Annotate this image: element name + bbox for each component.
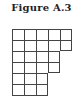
diagram-row [12, 62, 72, 73]
diagram-cell [36, 51, 48, 62]
diagram-cell [24, 73, 36, 84]
diagram-cell [12, 40, 24, 51]
diagram-cell [36, 62, 48, 73]
diagram-cell [48, 40, 60, 51]
diagram-cell [36, 84, 48, 96]
diagram-cell [24, 51, 36, 62]
diagram-cell [48, 51, 60, 62]
diagram-row [12, 51, 72, 62]
diagram-row [12, 84, 72, 95]
figure-title: Figure A.3 [0, 2, 83, 13]
diagram-cell [48, 29, 60, 40]
diagram-cell [12, 73, 24, 84]
diagram-cell [12, 84, 24, 96]
diagram-row [12, 40, 72, 51]
diagram-row [12, 73, 72, 84]
diagram-cell [12, 51, 24, 62]
diagram-cell [24, 29, 36, 40]
diagram-cell [12, 29, 24, 40]
diagram-cell [60, 40, 72, 51]
diagram-cell [12, 62, 24, 73]
diagram-row [12, 29, 72, 40]
diagram-cell [24, 62, 36, 73]
young-diagram [12, 29, 72, 95]
diagram-cell [60, 29, 72, 40]
diagram-cell [24, 40, 36, 51]
diagram-cell [36, 40, 48, 51]
diagram-cell [48, 62, 60, 73]
diagram-cell [24, 84, 36, 96]
diagram-cell [36, 73, 48, 84]
diagram-cell [36, 29, 48, 40]
